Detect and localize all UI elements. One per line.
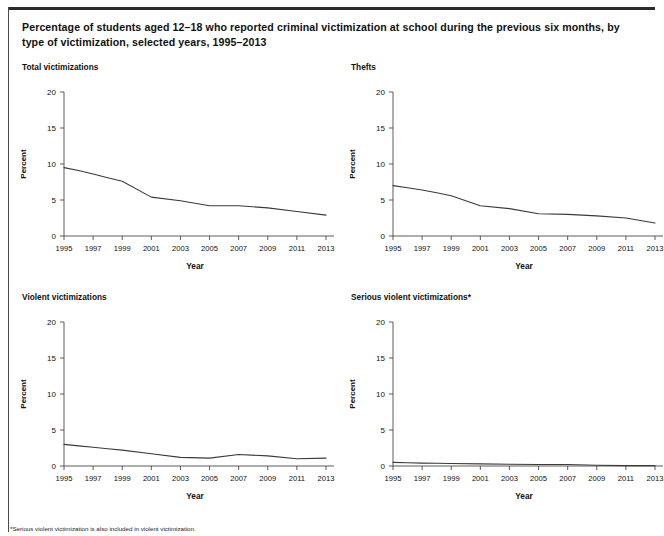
svg-text:2003: 2003 [501,474,518,483]
svg-text:Percent: Percent [19,379,28,409]
svg-text:Percent: Percent [348,149,357,179]
svg-text:2007: 2007 [559,474,576,483]
svg-text:2005: 2005 [201,474,218,483]
svg-text:2003: 2003 [172,244,189,253]
plot-area-violent-victimizations: 0510152019951997199920012003200520072009… [8,310,335,518]
svg-text:5: 5 [381,426,386,435]
svg-text:15: 15 [376,354,385,363]
svg-text:2007: 2007 [559,244,576,253]
svg-text:Year: Year [186,261,204,271]
svg-text:Year: Year [515,261,533,271]
svg-text:1997: 1997 [414,474,431,483]
top-rule-divider [8,7,655,10]
svg-text:0: 0 [52,232,57,241]
svg-text:1995: 1995 [56,474,73,483]
svg-text:2005: 2005 [530,244,547,253]
svg-text:Year: Year [186,491,204,501]
svg-text:2001: 2001 [143,244,160,253]
svg-text:20: 20 [47,318,56,327]
svg-text:2007: 2007 [230,474,247,483]
svg-text:2003: 2003 [501,244,518,253]
svg-text:2011: 2011 [618,244,634,253]
figure-footnote: *Serious violent victimization is also i… [10,525,510,533]
svg-text:2003: 2003 [172,474,189,483]
figure-title: Percentage of students aged 12–18 who re… [22,20,634,49]
chart-title-thefts: Thefts [351,62,376,72]
plot-area-serious-violent-victimizations: 0510152019951997199920012003200520072009… [337,310,664,518]
svg-text:5: 5 [381,196,386,205]
svg-text:2011: 2011 [289,244,305,253]
chart-panel-serious-violent-victimizations: Serious violent victimizations* 05101520… [337,292,664,520]
svg-text:1999: 1999 [114,474,131,483]
svg-text:10: 10 [376,160,385,169]
chart-title-serious-violent-victimizations: Serious violent victimizations* [351,292,471,302]
svg-text:15: 15 [47,354,56,363]
svg-text:Year: Year [515,491,533,501]
svg-text:10: 10 [47,160,56,169]
svg-text:1999: 1999 [114,244,131,253]
svg-text:5: 5 [52,196,57,205]
svg-text:15: 15 [376,124,385,133]
svg-text:1995: 1995 [385,244,402,253]
chart-title-total-victimizations: Total victimizations [22,62,98,72]
svg-text:15: 15 [47,124,56,133]
svg-text:10: 10 [376,390,385,399]
svg-text:1997: 1997 [85,474,102,483]
svg-text:2001: 2001 [472,474,489,483]
svg-text:1995: 1995 [56,244,73,253]
svg-text:2011: 2011 [618,474,634,483]
svg-text:1997: 1997 [85,244,102,253]
chart-panel-thefts: Thefts 051015201995199719992001200320052… [337,62,664,290]
plot-area-thefts: 0510152019951997199920012003200520072009… [337,80,664,288]
svg-text:Percent: Percent [348,379,357,409]
svg-text:Percent: Percent [19,149,28,179]
svg-text:1997: 1997 [414,244,431,253]
svg-text:2013: 2013 [647,244,664,253]
svg-text:2013: 2013 [318,474,335,483]
svg-text:2009: 2009 [588,244,605,253]
plot-area-total-victimizations: 0510152019951997199920012003200520072009… [8,80,335,288]
svg-text:20: 20 [376,88,385,97]
svg-text:0: 0 [381,462,386,471]
svg-text:2013: 2013 [318,244,335,253]
chart-panel-total-victimizations: Total victimizations 0510152019951997199… [8,62,335,290]
svg-text:2005: 2005 [530,474,547,483]
svg-text:2001: 2001 [143,474,160,483]
svg-text:20: 20 [376,318,385,327]
svg-text:0: 0 [52,462,57,471]
svg-text:0: 0 [381,232,386,241]
svg-text:2009: 2009 [259,244,276,253]
svg-text:2007: 2007 [230,244,247,253]
svg-text:20: 20 [47,88,56,97]
chart-title-violent-victimizations: Violent victimizations [22,292,107,302]
svg-text:2009: 2009 [588,474,605,483]
svg-text:2009: 2009 [259,474,276,483]
svg-text:2005: 2005 [201,244,218,253]
svg-text:2013: 2013 [647,474,664,483]
svg-text:1995: 1995 [385,474,402,483]
svg-text:5: 5 [52,426,57,435]
svg-text:1999: 1999 [443,474,460,483]
chart-panel-violent-victimizations: Violent victimizations 05101520199519971… [8,292,335,520]
svg-text:2011: 2011 [289,474,305,483]
svg-text:2001: 2001 [472,244,489,253]
svg-text:1999: 1999 [443,244,460,253]
svg-text:10: 10 [47,390,56,399]
